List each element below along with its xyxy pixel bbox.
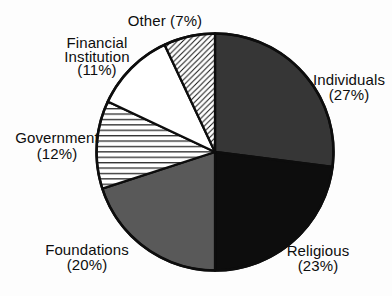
slice-label-government-line2: (12%) xyxy=(37,145,78,162)
slice-label-government-line1: Government xyxy=(15,129,99,146)
slice-label-other-line1: Other (7%) xyxy=(128,12,202,29)
slice-label-foundations-line2: (20%) xyxy=(67,256,108,273)
slice-label-religious-line2: (23%) xyxy=(298,257,339,274)
pie-chart-figure: Individuals(27%)Religious(23%)Foundation… xyxy=(0,0,392,296)
slice-label-financial-institution-line3: (11%) xyxy=(77,61,116,78)
slice-label-individuals-line2: (27%) xyxy=(329,86,370,103)
pie-slice-individuals xyxy=(215,34,334,167)
pie-chart-svg: Individuals(27%)Religious(23%)Foundation… xyxy=(0,0,392,296)
